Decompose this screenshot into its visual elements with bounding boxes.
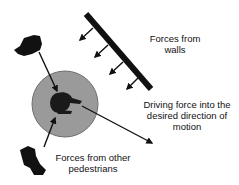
label-forces-from-walls: Forces from walls [140, 33, 210, 55]
label-line: motion [137, 121, 237, 132]
label-driving-force: Driving force into the desired direction… [137, 99, 237, 132]
label-line: Driving force into the [137, 99, 237, 110]
label-forces-from-pedestrians: Forces from other pedestrians [48, 152, 138, 174]
label-line: desired direction of [137, 110, 237, 121]
label-line: pedestrians [48, 163, 138, 174]
label-line: walls [140, 44, 210, 55]
other-pedestrian-icon-top [14, 35, 42, 56]
label-line: Forces from other [48, 152, 138, 163]
other-pedestrian-icon-bottom [20, 146, 46, 175]
label-line: Forces from [140, 33, 210, 44]
